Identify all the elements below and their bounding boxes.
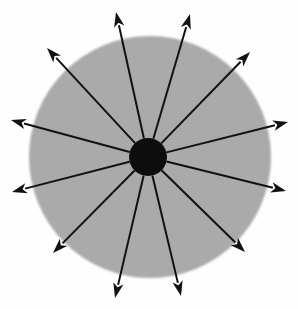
radial-diagram-canvas xyxy=(0,0,298,309)
core-disk xyxy=(129,138,167,176)
figure-root: Radial emission diagram A small black di… xyxy=(0,0,298,309)
